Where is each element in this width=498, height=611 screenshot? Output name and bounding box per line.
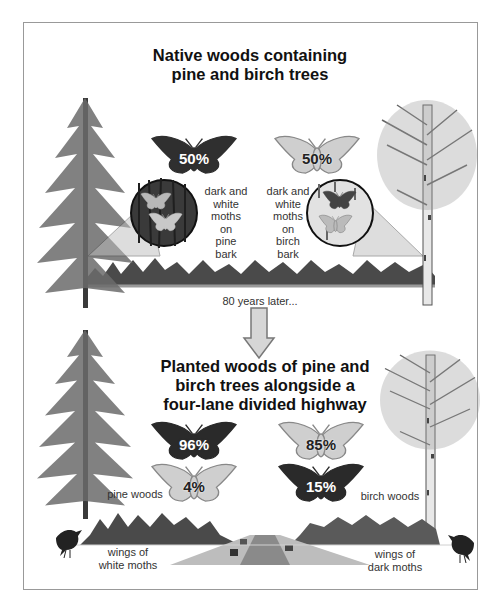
- caption-line: moths: [258, 210, 318, 223]
- top-title-line1: Native woods containing: [120, 46, 380, 65]
- light-moth-pine-percent: 4%: [164, 478, 224, 495]
- top-title: Native woods containing pine and birch t…: [120, 46, 380, 84]
- bird-birch-woods: [446, 533, 476, 565]
- caption-line: bark: [258, 248, 318, 261]
- label-line: wings of: [355, 548, 435, 561]
- light-moth-birch-percent: 85%: [291, 436, 351, 453]
- time-transition-label: 80 years later...: [200, 295, 320, 308]
- birch-tree-bottom: [430, 355, 431, 356]
- label-line: wings of: [88, 546, 168, 559]
- caption-line: white: [196, 198, 256, 211]
- pine-bark-caption: dark and white moths on pine bark: [196, 185, 256, 260]
- bottom-title: Planted woods of pine and birch trees al…: [150, 357, 380, 414]
- caption-line: on: [258, 223, 318, 236]
- pine-tree-top: [85, 98, 86, 99]
- birch-tree-top: [427, 105, 428, 106]
- white-moth-wings-label: wings of white moths: [88, 546, 168, 571]
- down-arrow-icon: [243, 308, 275, 360]
- pine-bark-magnifier: [129, 178, 199, 248]
- bottom-title-line2: birch trees alongside a: [150, 376, 380, 395]
- label-line: white moths: [88, 559, 168, 572]
- birch-woods-label: birch woods: [350, 490, 430, 503]
- dark-moth-pine-percent: 96%: [164, 436, 224, 453]
- dark-moth-top-percent: 50%: [164, 150, 224, 167]
- caption-line: white: [258, 198, 318, 211]
- caption-line: dark and: [258, 185, 318, 198]
- caption-line: on: [196, 223, 256, 236]
- dark-moth-birch-percent: 15%: [291, 478, 351, 495]
- caption-line: dark and: [196, 185, 256, 198]
- pine-tree-bottom: [85, 330, 86, 331]
- dark-moth-wings-label: wings of dark moths: [355, 548, 435, 573]
- label-line: dark moths: [355, 561, 435, 574]
- bottom-title-line3: four-lane divided highway: [150, 395, 380, 414]
- bird-pine-woods: [56, 528, 86, 560]
- bottom-title-line1: Planted woods of pine and: [150, 357, 380, 376]
- top-title-line2: pine and birch trees: [120, 65, 380, 84]
- caption-line: pine: [196, 235, 256, 248]
- caption-line: bark: [196, 248, 256, 261]
- caption-line: moths: [196, 210, 256, 223]
- caption-line: birch: [258, 235, 318, 248]
- birch-bark-caption: dark and white moths on birch bark: [258, 185, 318, 260]
- light-moth-top-percent: 50%: [287, 150, 347, 167]
- pine-woods-label: pine woods: [100, 488, 170, 501]
